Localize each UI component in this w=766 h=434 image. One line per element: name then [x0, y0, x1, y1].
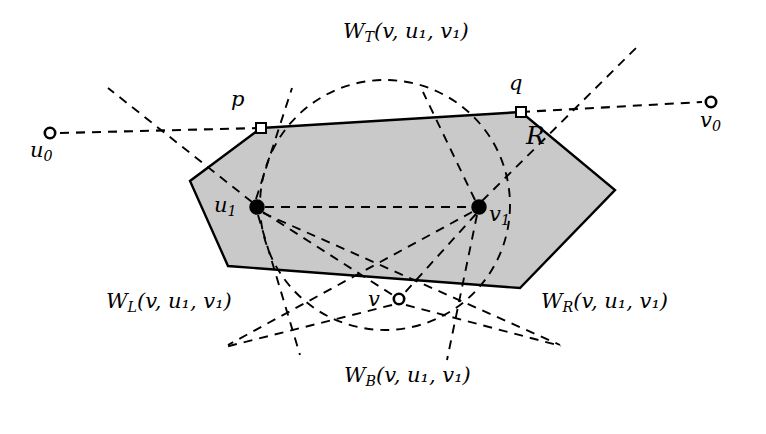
wedge-bottom-sub: B — [366, 373, 376, 389]
label-v0: v0 — [700, 110, 721, 133]
label-u1: u1 — [214, 195, 237, 218]
point-v1-marker — [472, 200, 486, 214]
wedge-bottom-args: (v, u₁, v₁) — [376, 363, 471, 387]
label-wedge-bottom: WB(v, u₁, v₁) — [344, 365, 471, 388]
label-v1-sub: 1 — [501, 212, 510, 228]
label-region-r-base: R — [526, 121, 545, 150]
label-wedge-top: WT(v, u₁, v₁) — [343, 21, 469, 44]
label-v-base: v — [368, 287, 380, 311]
label-v0-sub: 0 — [712, 118, 721, 134]
label-wedge-left: WL(v, u₁, v₁) — [106, 291, 232, 314]
wedge-right-args: (v, u₁, v₁) — [573, 289, 668, 313]
label-v1-base: v — [489, 202, 501, 226]
spine-line-q-v0 — [521, 102, 702, 112]
point-u1-marker — [250, 200, 264, 214]
wedge-bottom-name: W — [344, 363, 366, 387]
label-u1-sub: 1 — [228, 203, 237, 219]
wedge-top-name: W — [343, 19, 365, 43]
wedge-left-sub: L — [128, 299, 137, 315]
wedge-left-args: (v, u₁, v₁) — [137, 289, 232, 313]
label-region-r: R — [526, 123, 545, 148]
wedge-top-sub: T — [365, 29, 375, 45]
label-u0-sub: 0 — [44, 148, 53, 164]
point-v0-marker — [706, 97, 716, 107]
label-u0-base: u — [30, 138, 44, 162]
label-v: v — [368, 289, 380, 310]
label-p: p — [231, 89, 244, 110]
label-v1: v1 — [489, 204, 510, 227]
point-v-marker — [394, 294, 404, 304]
wedge-right-name: W — [541, 289, 563, 313]
wedge-left-name: W — [106, 289, 128, 313]
label-q: q — [509, 73, 522, 94]
figure-canvas: u0 v0 p q u1 v1 v R WT(v, u₁, v₁) WL(v, … — [0, 0, 766, 434]
label-q-base: q — [509, 71, 522, 95]
label-p-base: p — [231, 87, 244, 111]
point-q-marker — [516, 107, 526, 117]
wedge-top-args: (v, u₁, v₁) — [374, 19, 469, 43]
ray-v-down-left — [225, 305, 392, 347]
label-v0-base: v — [700, 108, 712, 132]
label-wedge-right: WR(v, u₁, v₁) — [541, 291, 668, 314]
label-u1-base: u — [214, 193, 228, 217]
point-u0-marker — [45, 128, 55, 138]
wedge-right-sub: R — [563, 299, 574, 315]
point-p-marker — [256, 123, 266, 133]
label-u0: u0 — [30, 140, 53, 163]
